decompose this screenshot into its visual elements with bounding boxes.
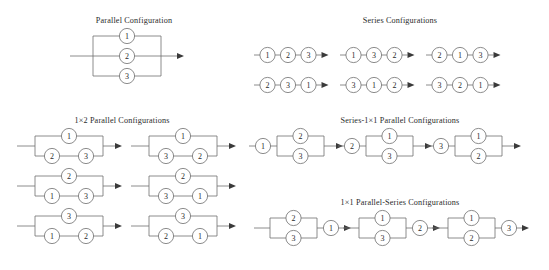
component-node-label: 1 bbox=[470, 214, 474, 223]
component-node-label: 3 bbox=[164, 192, 168, 201]
component-node-label: 3 bbox=[381, 234, 385, 243]
component-node-label: 1 bbox=[307, 81, 311, 90]
component-node-label: 3 bbox=[164, 152, 168, 161]
component-node-label: 2 bbox=[458, 81, 462, 90]
component-node-label: 3 bbox=[372, 51, 376, 60]
component-node-label: 1 bbox=[329, 224, 333, 233]
output-arrowhead bbox=[408, 82, 415, 88]
component-node-label: 2 bbox=[181, 172, 185, 181]
section-title-parallel-1x2: 1×2 Parallel Configurations bbox=[74, 116, 169, 125]
component-node-label: 3 bbox=[286, 81, 290, 90]
section-title-parallel-1x1-series: 1×1 Parallel-Series Configurations bbox=[341, 198, 460, 207]
component-node-label: 2 bbox=[164, 232, 168, 241]
component-node-label: 1 bbox=[261, 142, 265, 151]
output-arrowhead bbox=[514, 143, 521, 149]
component-node-label: 1 bbox=[198, 232, 202, 241]
component-node-label: 3 bbox=[181, 212, 185, 221]
component-node-label: 3 bbox=[438, 81, 442, 90]
output-arrowhead bbox=[115, 183, 122, 189]
output-arrowhead bbox=[177, 53, 184, 59]
component-node-label: 3 bbox=[299, 152, 303, 161]
component-node-label: 2 bbox=[286, 51, 290, 60]
component-node-label: 2 bbox=[418, 224, 422, 233]
component-node-label: 3 bbox=[292, 234, 296, 243]
component-node-label: 2 bbox=[198, 152, 202, 161]
output-arrowhead bbox=[408, 52, 415, 58]
component-node-label: 3 bbox=[388, 152, 392, 161]
component-node-label: 1 bbox=[352, 51, 356, 60]
component-node-label: 1 bbox=[181, 132, 185, 141]
component-node-label: 1 bbox=[266, 51, 270, 60]
component-node-label: 1 bbox=[372, 81, 376, 90]
component-node-label: 2 bbox=[393, 51, 397, 60]
component-node-label: 2 bbox=[393, 81, 397, 90]
component-node-label: 1 bbox=[50, 192, 54, 201]
component-node-label: 3 bbox=[507, 224, 511, 233]
component-node-label: 1 bbox=[388, 132, 392, 141]
component-node-label: 1 bbox=[125, 32, 129, 41]
section-title-series-1x1-parallel: Series-1×1 Parallel Configurations bbox=[341, 116, 460, 125]
output-arrowhead bbox=[494, 52, 501, 58]
component-node-label: 2 bbox=[438, 51, 442, 60]
component-node-label: 2 bbox=[125, 52, 129, 61]
configurations-diagram: 1231231322132313123211231322132313123211… bbox=[0, 0, 549, 270]
component-node-label: 3 bbox=[84, 192, 88, 201]
component-node-label: 3 bbox=[67, 212, 71, 221]
component-node-label: 3 bbox=[84, 152, 88, 161]
output-arrowhead bbox=[322, 82, 329, 88]
component-node-label: 1 bbox=[381, 214, 385, 223]
section-title-series: Series Configurations bbox=[363, 16, 437, 25]
output-arrowhead bbox=[229, 223, 236, 229]
component-node-label: 3 bbox=[479, 51, 483, 60]
component-node-label: 1 bbox=[67, 132, 71, 141]
output-arrowhead bbox=[494, 82, 501, 88]
component-node-label: 2 bbox=[350, 142, 354, 151]
component-node-label: 2 bbox=[84, 232, 88, 241]
output-arrowhead bbox=[322, 52, 329, 58]
component-node-label: 1 bbox=[198, 192, 202, 201]
component-node-label: 2 bbox=[477, 152, 481, 161]
component-node-label: 1 bbox=[50, 232, 54, 241]
component-node-label: 1 bbox=[458, 51, 462, 60]
component-node-label: 3 bbox=[125, 72, 129, 81]
component-node-label: 2 bbox=[67, 172, 71, 181]
component-node-label: 3 bbox=[352, 81, 356, 90]
component-node-label: 2 bbox=[266, 81, 270, 90]
component-node-label: 2 bbox=[299, 132, 303, 141]
output-arrowhead bbox=[229, 183, 236, 189]
component-node-label: 1 bbox=[479, 81, 483, 90]
component-node-label: 2 bbox=[470, 234, 474, 243]
component-node-label: 2 bbox=[292, 214, 296, 223]
output-arrowhead bbox=[522, 225, 529, 231]
component-node-label: 3 bbox=[439, 142, 443, 151]
output-arrowhead bbox=[115, 223, 122, 229]
component-node-label: 1 bbox=[477, 132, 481, 141]
component-node-label: 3 bbox=[307, 51, 311, 60]
section-title-parallel: Parallel Configuration bbox=[96, 16, 172, 25]
output-arrowhead bbox=[229, 143, 236, 149]
component-node-label: 2 bbox=[50, 152, 54, 161]
output-arrowhead bbox=[115, 143, 122, 149]
